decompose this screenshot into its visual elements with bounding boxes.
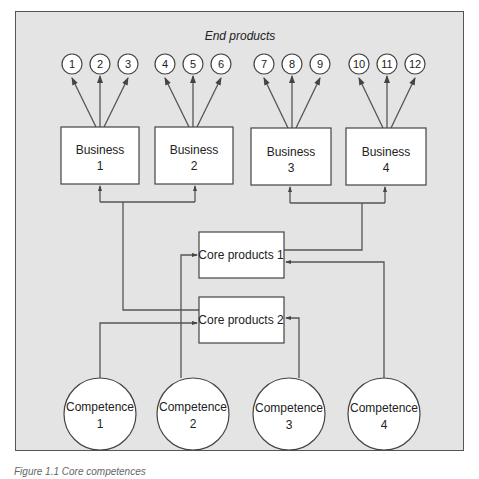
- svg-text:5: 5: [190, 58, 196, 70]
- svg-text:9: 9: [317, 58, 323, 70]
- svg-text:2: 2: [191, 159, 198, 173]
- end-product-10: 10: [349, 54, 369, 74]
- end-product-6: 6: [211, 54, 231, 74]
- competence-3: Competence 3: [253, 378, 325, 450]
- svg-text:10: 10: [353, 58, 365, 70]
- svg-text:4: 4: [162, 58, 168, 70]
- end-product-4: 4: [155, 54, 175, 74]
- end-products: 1 2 3 4 5 6 7 8 9 10 11 12: [62, 54, 425, 74]
- competence-1: Competence 1: [64, 378, 136, 450]
- end-product-3: 3: [118, 54, 138, 74]
- svg-text:6: 6: [218, 58, 224, 70]
- core-products-2: Core products 2: [198, 297, 284, 343]
- svg-text:1: 1: [97, 417, 104, 431]
- figure-caption: Figure 1.1 Core competences: [14, 466, 146, 477]
- competences: Competence 1 Competence 2 Competence 3 C…: [64, 378, 420, 450]
- business-4: Business 4: [346, 128, 426, 185]
- svg-text:Competence: Competence: [159, 400, 227, 414]
- business-1: Business 1: [61, 127, 139, 184]
- svg-text:Business: Business: [362, 145, 411, 159]
- competence-4: Competence 4: [348, 378, 420, 450]
- svg-text:Business: Business: [170, 143, 219, 157]
- end-product-11: 11: [377, 54, 397, 74]
- svg-text:8: 8: [289, 58, 295, 70]
- svg-text:Business: Business: [267, 145, 316, 159]
- svg-text:12: 12: [409, 58, 421, 70]
- svg-text:2: 2: [190, 417, 197, 431]
- svg-text:1: 1: [97, 159, 104, 173]
- svg-text:1: 1: [69, 58, 75, 70]
- core-competence-diagram: End products 1 2 3 4 5 6 7 8 9 10 11 12 …: [0, 0, 479, 479]
- core-products: Core products 1 Core products 2: [198, 232, 284, 343]
- svg-text:Business: Business: [76, 143, 125, 157]
- end-product-8: 8: [282, 54, 302, 74]
- svg-text:4: 4: [381, 418, 388, 432]
- business-2: Business 2: [155, 127, 233, 184]
- svg-text:3: 3: [286, 418, 293, 432]
- svg-text:Competence: Competence: [66, 400, 134, 414]
- end-product-2: 2: [90, 54, 110, 74]
- business-to-product-arrows: [72, 76, 415, 128]
- end-products-header: End products: [205, 29, 276, 43]
- svg-text:Competence: Competence: [350, 401, 418, 415]
- svg-text:Core products 1: Core products 1: [198, 248, 284, 262]
- svg-text:4: 4: [383, 161, 390, 175]
- svg-text:Core products 2: Core products 2: [198, 313, 284, 327]
- end-product-1: 1: [62, 54, 82, 74]
- svg-text:Competence: Competence: [255, 401, 323, 415]
- business-3: Business 3: [251, 128, 331, 185]
- svg-text:3: 3: [288, 161, 295, 175]
- core-products-1: Core products 1: [198, 232, 284, 278]
- svg-text:7: 7: [261, 58, 267, 70]
- svg-text:11: 11: [381, 58, 392, 70]
- competence-2: Competence 2: [157, 378, 229, 450]
- svg-text:3: 3: [125, 58, 131, 70]
- end-product-5: 5: [183, 54, 203, 74]
- svg-text:2: 2: [97, 58, 103, 70]
- businesses: Business 1 Business 2 Business 3 Busines…: [61, 127, 426, 185]
- end-product-7: 7: [254, 54, 274, 74]
- end-product-9: 9: [310, 54, 330, 74]
- end-product-12: 12: [405, 54, 425, 74]
